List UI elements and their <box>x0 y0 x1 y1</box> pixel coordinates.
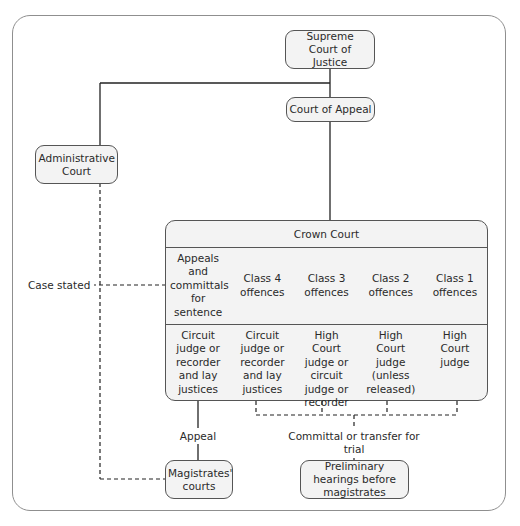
supreme-court-node: Supreme Court of Justice <box>285 30 375 69</box>
judge-class-4: Circuit judge or recorder and lay justic… <box>237 329 287 396</box>
business-cell: Appeals and committals for sentence <box>166 247 230 324</box>
administrative-court-node: Administrative Court <box>35 145 118 184</box>
administrative-court-label: Administrative Court <box>39 152 115 178</box>
business-cell: Class 1 offences <box>423 247 487 324</box>
business-class-4: Class 4 offences <box>238 272 286 299</box>
judge-class-3: High Court judge or circuit judge or rec… <box>300 329 354 409</box>
business-class-2: Class 2 offences <box>367 272 415 299</box>
judge-cell: High Court judge <box>423 325 487 400</box>
magistrates-courts-label: Magistrates' courts <box>168 467 230 493</box>
business-class-3: Class 3 offences <box>303 272 351 299</box>
case-stated-label: Case stated <box>28 279 94 292</box>
judge-cell: High Court judge (unless released) <box>359 325 423 400</box>
appeal-label: Appeal <box>178 430 218 443</box>
preliminary-hearings-node: Preliminary hearings before magistrates <box>300 460 409 499</box>
court-of-appeal-label: Court of Appeal <box>290 103 372 116</box>
crown-court-business-row: Appeals and committals for sentence Clas… <box>166 247 487 325</box>
judge-class-2: High Court judge (unless released) <box>363 329 419 396</box>
judge-class-1: High Court judge <box>427 329 483 369</box>
judge-cell: Circuit judge or recorder and lay justic… <box>230 325 294 400</box>
preliminary-hearings-label: Preliminary hearings before magistrates <box>303 460 407 499</box>
crown-court-judges-row: Circuit judge or recorder and lay justic… <box>166 325 487 400</box>
business-appeals: Appeals and committals for sentence <box>170 252 226 319</box>
judge-appeals: Circuit judge or recorder and lay justic… <box>173 329 223 396</box>
magistrates-courts-node: Magistrates' courts <box>165 460 233 499</box>
committal-label: Committal or transfer for trial <box>284 430 424 456</box>
business-class-1: Class 1 offences <box>431 272 479 299</box>
judge-cell: Circuit judge or recorder and lay justic… <box>166 325 230 400</box>
crown-court-title: Crown Court <box>166 221 487 248</box>
business-cell: Class 2 offences <box>359 247 423 324</box>
business-cell: Class 3 offences <box>294 247 358 324</box>
supreme-court-label: Supreme Court of Justice <box>294 30 366 69</box>
court-of-appeal-node: Court of Appeal <box>286 97 375 122</box>
crown-court-node: Crown Court Appeals and committals for s… <box>165 220 488 401</box>
judge-cell: High Court judge or circuit judge or rec… <box>294 325 358 400</box>
business-cell: Class 4 offences <box>230 247 294 324</box>
